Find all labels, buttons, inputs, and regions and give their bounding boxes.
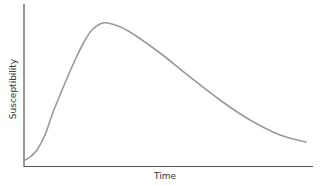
susceptibility-curve — [25, 23, 306, 160]
chart: Susceptibility Time — [0, 0, 321, 185]
y-axis-label: Susceptibility — [8, 59, 18, 119]
plot-area — [0, 0, 321, 185]
x-axis-label: Time — [154, 171, 176, 181]
